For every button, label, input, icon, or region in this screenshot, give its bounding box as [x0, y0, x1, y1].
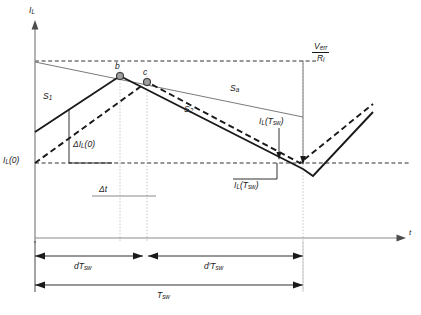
inductor-current-dashed: [35, 82, 373, 163]
verr-numerator: Verr: [312, 42, 329, 52]
y-axis-label: IL: [29, 6, 35, 15]
label-delta-il0: ΔIL(0): [73, 140, 95, 149]
dim-dtsw-arrow-right: [133, 252, 143, 259]
label-tsw: Tsw: [157, 291, 170, 300]
label-verr-over-ri: Verr Ri: [312, 42, 329, 63]
label-il-tsw-lower: IL(Tsw): [234, 181, 258, 190]
label-il0: IL(0): [3, 156, 19, 165]
label-point-c: c: [143, 68, 147, 77]
label-s2: S2: [184, 105, 193, 114]
y-axis-arrowhead: [32, 20, 39, 30]
marker-point-b: [117, 73, 124, 80]
label-point-b: b: [115, 62, 120, 71]
ri-denominator: Ri: [312, 54, 329, 64]
label-dtsw: dTsw: [74, 262, 92, 271]
verr-bracket-arrowhead: [300, 156, 306, 165]
dim-dtsw-arrow-left: [35, 252, 45, 259]
marker-point-c: [144, 79, 151, 86]
dim-tsw-arrow-right: [293, 281, 303, 288]
label-s1: S1: [43, 92, 52, 101]
label-il-tsw-upper: IL(Tsw): [259, 117, 283, 126]
x-axis-label: t: [409, 229, 411, 237]
figure-canvas: IL t S1 S2 Sa b c ΔIL(0) IL(0) Δt IL(Tsw…: [0, 0, 421, 315]
label-dptsw: d′Tsw: [204, 262, 223, 271]
x-axis-arrowhead: [397, 235, 407, 242]
artificial-ramp-sa: [35, 62, 303, 117]
label-sa: Sa: [230, 84, 239, 93]
dim-dptsw-arrow-left: [148, 252, 158, 259]
label-delta-t: Δt: [99, 185, 107, 194]
dim-dptsw-arrow-right: [293, 252, 303, 259]
dim-tsw-arrow-left: [35, 281, 45, 288]
